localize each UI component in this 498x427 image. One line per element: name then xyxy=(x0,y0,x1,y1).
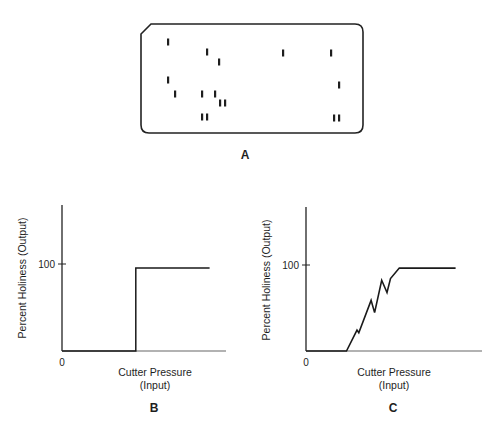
card-hole xyxy=(214,91,216,98)
x-axis-label-line1: Cutter Pressure xyxy=(118,366,192,378)
panel-letter-c: C xyxy=(389,401,398,415)
x-axis-label-line2: (Input) xyxy=(140,379,170,391)
card-hole xyxy=(330,50,332,57)
card-hole xyxy=(224,100,226,107)
y-axis-label: Percent Holiness (Output) xyxy=(16,218,28,339)
y-tick-label-100: 100 xyxy=(38,259,55,270)
panel-a: A xyxy=(141,24,363,162)
panel-letter-b: B xyxy=(150,401,159,415)
card-hole xyxy=(167,77,169,84)
origin-label: 0 xyxy=(59,357,65,368)
card-hole xyxy=(338,115,340,122)
punched-card xyxy=(141,24,363,133)
card-hole xyxy=(174,91,176,98)
step-response-line xyxy=(62,268,210,351)
card-holes xyxy=(167,39,340,122)
panel-letter-a: A xyxy=(241,148,250,162)
card-hole xyxy=(206,49,208,56)
jagged-response-line xyxy=(306,268,456,351)
y-axis-label: Percent Holiness (Output) xyxy=(260,220,272,341)
card-hole xyxy=(167,39,169,46)
y-tick-label-100: 100 xyxy=(282,260,299,271)
card-hole xyxy=(338,82,340,89)
card-hole xyxy=(218,59,220,66)
card-hole xyxy=(219,100,221,107)
x-axis-label-line2: (Input) xyxy=(379,379,409,391)
x-axis-label-line1: Cutter Pressure xyxy=(357,366,431,378)
card-hole xyxy=(201,114,203,121)
card-hole xyxy=(333,115,335,122)
origin-label: 0 xyxy=(303,357,309,368)
panel-c-chart: 100 0 Percent Holiness (Output) Cutter P… xyxy=(260,207,482,415)
card-hole xyxy=(206,114,208,121)
panel-b-chart: 100 0 Percent Holiness (Output) Cutter P… xyxy=(16,205,226,415)
card-hole xyxy=(282,50,284,57)
card-hole xyxy=(201,91,203,98)
